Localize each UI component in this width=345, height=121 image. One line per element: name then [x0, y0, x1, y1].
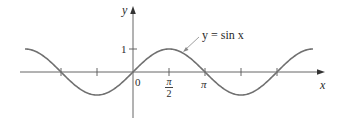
x-tick-label-pi: π — [201, 79, 207, 90]
pi-half-numerator: π — [163, 77, 175, 87]
x-tick-label-pi-half: π 2 — [163, 77, 175, 99]
x-axis-arrow-icon — [317, 69, 325, 75]
pi-half-denominator: 2 — [163, 88, 175, 99]
origin-label: 0 — [135, 77, 141, 88]
y-axis-arrow-icon — [130, 6, 136, 14]
y-axis-label: y — [122, 4, 127, 16]
annotation-leader — [185, 37, 199, 50]
sine-chart — [0, 0, 345, 121]
y-tick-label-1: 1 — [121, 44, 127, 55]
x-axis-label: x — [320, 79, 325, 91]
curve-annotation-label: y = sin x — [202, 29, 244, 41]
